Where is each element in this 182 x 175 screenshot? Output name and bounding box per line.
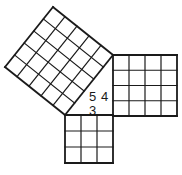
hypotenuse-square xyxy=(5,7,113,115)
label-leg-horizontal: 3 xyxy=(89,103,96,118)
diagram-svg: 5 4 3 xyxy=(0,0,182,175)
label-hypotenuse: 5 xyxy=(89,89,96,104)
leg-3-square xyxy=(65,115,113,163)
leg-4-square xyxy=(113,55,177,116)
pythagorean-diagram: 5 4 3 xyxy=(0,0,182,175)
label-leg-vertical: 4 xyxy=(101,89,108,104)
